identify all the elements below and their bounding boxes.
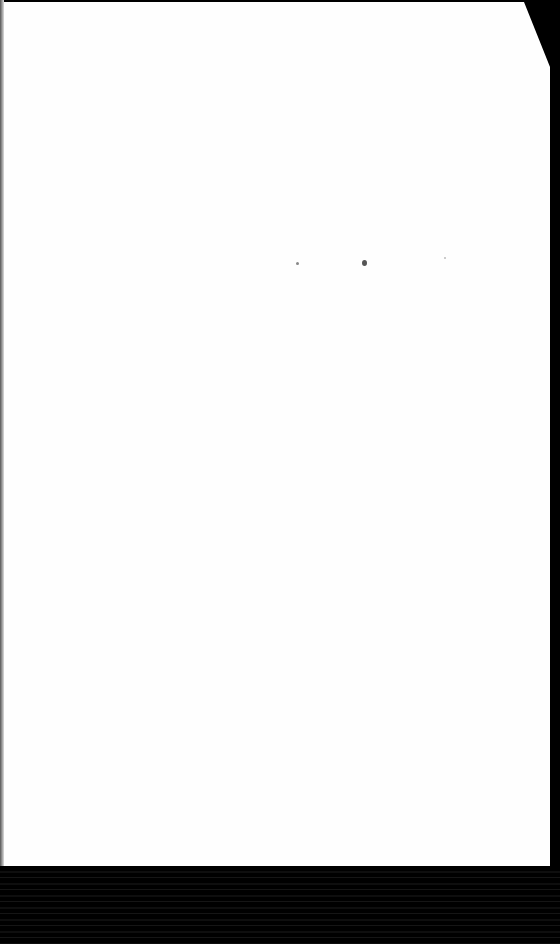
scan-border-bottom <box>0 866 560 944</box>
speck-3 <box>444 257 446 259</box>
scanned-page <box>4 2 550 866</box>
speck-2 <box>362 260 367 266</box>
speck-1 <box>296 262 299 265</box>
page-left-edge <box>0 0 4 866</box>
